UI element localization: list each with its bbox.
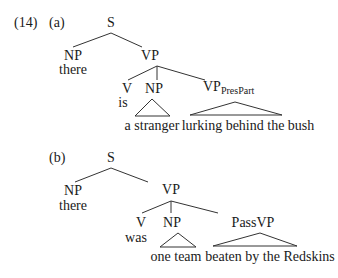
leaf-lurking-behind-the-bush: lurking behind the bush [182,119,315,133]
node-v-a: V [122,82,132,96]
node-passvp: PassVP [232,216,275,230]
node-vp-a: VP [141,49,159,63]
leaf-there-b: there [59,199,87,213]
subexample-label-b: (b) [49,151,65,165]
leaf-one-team: one team [151,250,202,264]
subexample-label-a: (a) [49,16,65,30]
node-np2-b: NP [163,216,181,230]
node-vp-b: VP [162,183,180,197]
leaf-there-a: there [59,63,87,77]
node-np-b: NP [64,184,82,198]
node-v-b: V [136,216,146,230]
node-s-a: S [107,16,115,30]
node-vp-prespart-sub: PresPart [221,85,254,96]
leaf-is-a: is [118,96,127,110]
node-np2-a: NP [145,82,163,96]
node-s-b: S [107,151,115,165]
leaf-a-stranger: a stranger [125,119,180,133]
example-number: (14) [14,16,37,30]
node-np-a: NP [64,49,82,63]
leaf-beaten-by-the-redskins: beaten by the Redskins [205,250,334,264]
leaf-was-b: was [125,231,147,245]
node-vp-prespart-main: VP [203,79,221,94]
node-vp-prespart: VPPresPart [203,80,254,98]
tree-lines [0,0,338,278]
